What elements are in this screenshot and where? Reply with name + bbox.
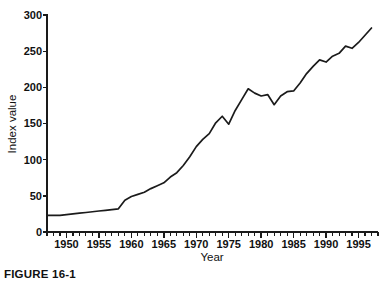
x-tick-label-1985: 1985 [281,238,305,250]
figure-container: Index value 300 250 200 150 100 50 0 [0,0,386,288]
x-tick-labels: 1950195519601965197019751980198519901995 [54,238,371,250]
x-axis-title: Year [200,251,223,262]
y-tick-labels: 300 250 200 150 100 50 0 [24,9,42,238]
x-tick-label-1970: 1970 [184,238,208,250]
x-tick-label-1995: 1995 [346,238,370,250]
y-tick-label-150: 150 [24,117,42,129]
y-axis-title: Index value [6,95,18,154]
y-tick-label-200: 200 [24,81,42,93]
data-series-line [47,28,372,215]
x-tick-label-1965: 1965 [152,238,176,250]
y-tick-label-300: 300 [24,9,42,21]
x-tick-label-1960: 1960 [119,238,143,250]
y-tick-label-50: 50 [30,190,42,202]
x-tick-label-1990: 1990 [314,238,338,250]
y-tick-label-100: 100 [24,154,42,166]
figure-caption: FIGURE 16-1 [4,268,76,280]
x-tick-label-1950: 1950 [54,238,78,250]
x-tick-label-1980: 1980 [249,238,273,250]
y-tick-label-0: 0 [36,226,42,238]
y-tick-label-250: 250 [24,45,42,57]
x-tick-label-1975: 1975 [216,238,240,250]
line-chart: Index value 300 250 200 150 100 50 0 [0,0,386,262]
x-tick-label-1955: 1955 [87,238,111,250]
